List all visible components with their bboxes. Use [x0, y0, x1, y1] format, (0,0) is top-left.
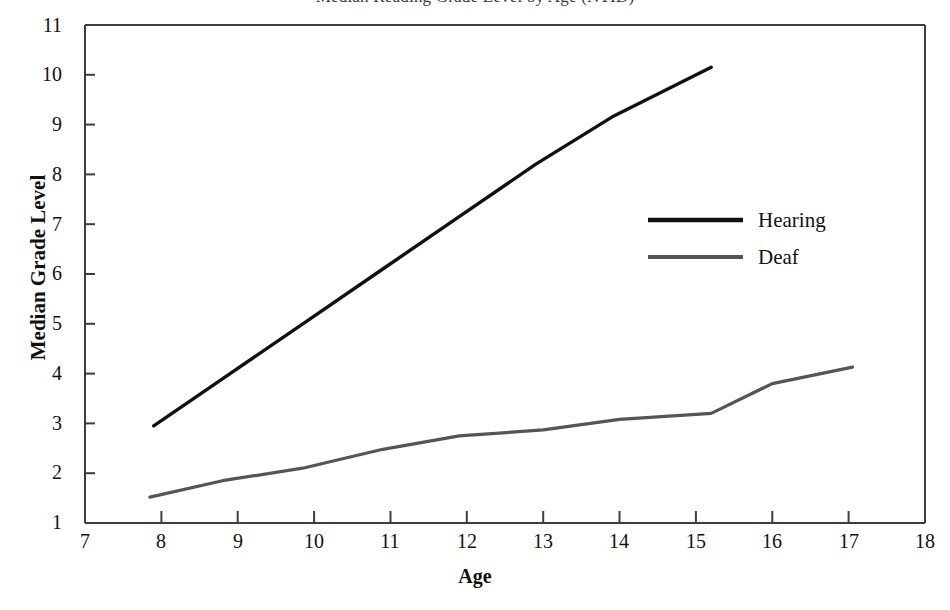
plot-canvas	[0, 0, 950, 610]
y-tick-label-3: 3	[22, 412, 62, 435]
y-tick-label-2: 2	[22, 461, 62, 484]
x-tick-label-17: 17	[827, 530, 871, 553]
y-tick-label-11: 11	[22, 14, 62, 37]
x-tick-label-14: 14	[597, 530, 641, 553]
series-line-hearing	[154, 67, 712, 426]
x-tick-label-18: 18	[903, 530, 947, 553]
x-tick-label-12: 12	[445, 530, 489, 553]
series-line-deaf	[150, 367, 853, 497]
x-axis-ticks	[85, 511, 925, 523]
x-tick-label-13: 13	[521, 530, 565, 553]
plot-frame	[85, 25, 925, 523]
y-tick-label-10: 10	[22, 63, 62, 86]
y-tick-label-1: 1	[22, 511, 62, 534]
legend-label-hearing: Hearing	[758, 208, 826, 233]
x-tick-label-16: 16	[750, 530, 794, 553]
legend-label-deaf: Deaf	[758, 245, 799, 270]
x-tick-label-11: 11	[368, 530, 412, 553]
y-axis-title: Median Grade Level	[26, 168, 51, 368]
x-axis-title: Age	[0, 565, 950, 588]
y-tick-label-9: 9	[22, 113, 62, 136]
x-tick-label-15: 15	[674, 530, 718, 553]
chart-figure: Median Reading Grade Level by Age (NTID)	[0, 0, 950, 610]
x-tick-label-7: 7	[63, 530, 107, 553]
x-tick-label-10: 10	[292, 530, 336, 553]
x-tick-label-8: 8	[139, 530, 183, 553]
x-tick-label-9: 9	[216, 530, 260, 553]
y-axis-ticks	[85, 25, 95, 523]
